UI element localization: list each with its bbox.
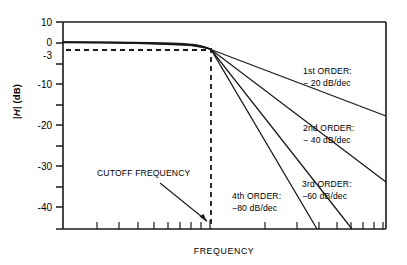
y-tick-label-m10: -10 [38, 79, 53, 90]
order-1-annotation: 1st ORDER: − 20 dB/dec [303, 66, 352, 88]
bode-plot-svg: 10 0 -3 -10 -20 -30 -40 [0, 0, 407, 265]
y-tick-label-0: 0 [46, 37, 52, 48]
x-axis-title: FREQUENCY [194, 246, 255, 256]
order-1-label-line2: − 20 dB/dec [303, 78, 351, 88]
order-4-annotation: 4th ORDER: −80 dB/dec [232, 191, 281, 213]
y-tick-label-m40: -40 [38, 202, 53, 213]
x-axis-ticks [97, 220, 383, 229]
chart-figure: |H| (dB) 10 0 -3 -10 -20 -30 -40 [0, 0, 407, 265]
order-3-label-line1: 3rd ORDER: [302, 179, 352, 189]
order-4-label-line1: 4th ORDER: [232, 191, 281, 201]
y-tick-label-m3: -3 [43, 50, 52, 61]
y-tick-label-m30: -30 [38, 161, 53, 172]
cutoff-frequency-label: CUTOFF FREQUENCY [97, 168, 191, 178]
cutoff-arrow [160, 183, 207, 222]
y-tick-label-10: 10 [41, 17, 53, 28]
order-3-annotation: 3rd ORDER: −60 dB/dec [302, 179, 352, 201]
order-4-label-line2: −80 dB/dec [232, 203, 278, 213]
curve-2nd-order [63, 42, 386, 182]
order-3-label-line2: −60 dB/dec [302, 191, 348, 201]
y-tick-label-m20: -20 [38, 120, 53, 131]
order-2-label-line1: 2nd ORDER: [303, 123, 355, 133]
order-2-annotation: 2nd ORDER: − 40 dB/dec [303, 123, 355, 145]
order-2-label-line2: − 40 dB/dec [303, 135, 351, 145]
order-1-label-line1: 1st ORDER: [303, 66, 352, 76]
